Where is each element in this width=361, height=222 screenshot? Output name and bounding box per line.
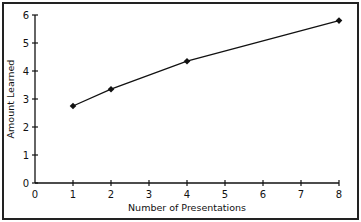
x-tick-label: 0 bbox=[32, 189, 38, 200]
data-point-marker bbox=[336, 17, 343, 24]
x-tick-label: 5 bbox=[222, 189, 228, 200]
x-tick-label: 3 bbox=[146, 189, 152, 200]
y-axis-label: Amount Learned bbox=[5, 60, 16, 139]
line-chart: 0123456 012345678 Number of Presentation… bbox=[0, 0, 361, 222]
x-tick-label: 4 bbox=[184, 189, 190, 200]
x-tick-label: 2 bbox=[108, 189, 114, 200]
y-tick-label: 3 bbox=[23, 94, 29, 105]
y-tick-label: 0 bbox=[23, 178, 29, 189]
y-tick-label: 4 bbox=[23, 66, 29, 77]
y-tick-label: 2 bbox=[23, 122, 29, 133]
data-point-marker bbox=[184, 58, 191, 65]
axes bbox=[35, 15, 339, 183]
x-tick-label: 7 bbox=[298, 189, 304, 200]
data-point-marker bbox=[108, 86, 115, 93]
y-tick-label: 5 bbox=[23, 38, 29, 49]
data-point-marker bbox=[70, 103, 77, 110]
y-tick-label: 1 bbox=[23, 150, 29, 161]
x-tick-label: 6 bbox=[260, 189, 266, 200]
x-axis-label: Number of Presentations bbox=[128, 202, 246, 213]
x-tick-label: 8 bbox=[336, 189, 342, 200]
y-axis-ticks: 0123456 bbox=[23, 10, 38, 189]
x-tick-label: 1 bbox=[70, 189, 76, 200]
data-line bbox=[73, 21, 339, 106]
y-tick-label: 6 bbox=[23, 10, 29, 21]
